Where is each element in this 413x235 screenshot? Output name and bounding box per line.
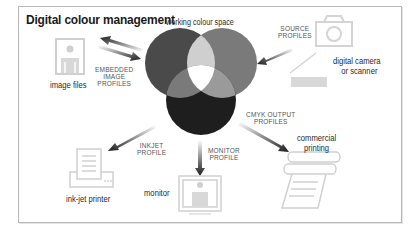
monitor-profile-label: MONITOR PROFILE — [208, 147, 240, 161]
working-colour-space-label: working colour space — [166, 17, 234, 27]
commercial-printing-icon — [282, 152, 340, 208]
inkjet-printer-icon — [70, 149, 113, 187]
arrow-cmyk-profiles — [238, 122, 289, 152]
arrow-monitor-profile — [195, 140, 205, 176]
monitor-label: monitor — [144, 188, 170, 198]
digital-camera-scanner-label: digital camera or scanner — [333, 56, 381, 76]
image-file-icon — [56, 39, 84, 74]
diagram-title: Digital colour management — [26, 12, 175, 27]
monitor-icon — [179, 176, 221, 214]
inkjet-printer-label: ink-jet printer — [66, 194, 110, 204]
commercial-printing-label: commercial printing — [297, 133, 336, 153]
cmyk-output-profiles-label: CMYK OUTPUT PROFILES — [246, 111, 296, 125]
image-files-label: image files — [50, 80, 87, 90]
inkjet-profile-label: INKJET PROFILE — [137, 142, 166, 156]
source-profiles-label: SOURCE PROFILES — [278, 25, 312, 39]
arrow-source-profiles — [257, 48, 293, 65]
venn-diagram — [145, 28, 257, 135]
scanner-icon — [290, 53, 327, 87]
diagram-graphics — [0, 0, 413, 235]
embedded-image-profiles-label: EMBEDDED IMAGE PROFILES — [95, 66, 133, 87]
camera-icon — [316, 16, 352, 46]
